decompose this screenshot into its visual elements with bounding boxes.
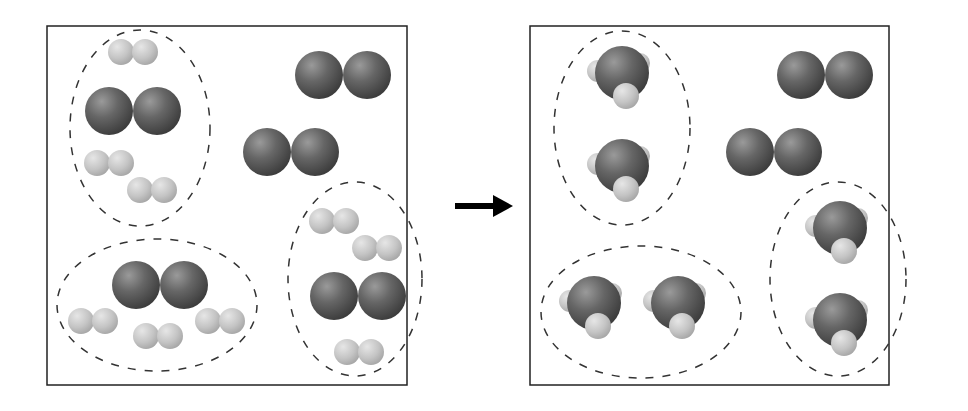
reaction-diagram bbox=[0, 0, 968, 411]
reaction-arrow-icon bbox=[455, 195, 513, 217]
